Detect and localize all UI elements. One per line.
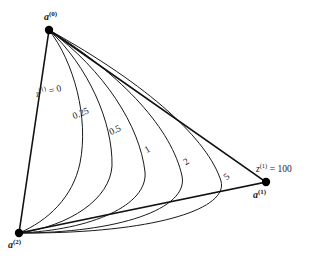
vertex-dot-a0 [45, 26, 53, 34]
vertex-label-a2: a(2) [8, 239, 21, 250]
contour-label-100-value: = 100 [270, 164, 292, 174]
vertex-label-a1: a(1) [253, 189, 266, 200]
contour-curve-1 [19, 30, 145, 233]
contour-label-100: z(1) = 100 [256, 163, 292, 175]
vertex-dot-group [15, 26, 270, 237]
contour-curve-group [19, 30, 266, 233]
contour-curve-05 [19, 30, 112, 233]
contour-label-0-superscript: (1) [38, 85, 47, 94]
contour-plot-svg [0, 0, 320, 265]
vertex-dot-a1 [262, 178, 270, 186]
contour-curve-0 [19, 30, 49, 233]
contour-curve-100 [19, 30, 266, 233]
vertex-label-a0: a(0) [44, 11, 57, 22]
vertex-label-a2-superscript: (2) [13, 238, 21, 246]
contour-figure: a(0) a(1) a(2) z(1) = 0 0.25 0.5 1 2 5 z… [0, 0, 320, 265]
contour-label-100-superscript: (1) [260, 162, 268, 169]
vertex-dot-a2 [15, 229, 23, 237]
vertex-label-a0-superscript: (0) [49, 10, 57, 18]
contour-curve-025 [19, 30, 83, 233]
vertex-label-a1-superscript: (1) [258, 188, 266, 196]
